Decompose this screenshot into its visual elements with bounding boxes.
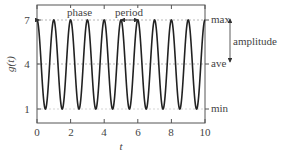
x-tick-8: 8 — [168, 126, 174, 138]
y-axis-label: g(t) — [4, 56, 17, 72]
ave-label: ave — [211, 57, 226, 69]
x-tick-6: 6 — [135, 126, 141, 138]
x-tick-0: 0 — [34, 126, 40, 138]
amplitude-label: amplitude — [233, 35, 277, 47]
y-tick-7: 7 — [24, 14, 30, 26]
x-tick-4: 4 — [101, 126, 107, 138]
g-curve — [37, 20, 205, 109]
max-label: max — [211, 13, 230, 25]
min-label: min — [211, 102, 229, 114]
period-label: period — [115, 6, 144, 18]
phase-label: phase — [67, 6, 92, 18]
y-tick-1: 1 — [24, 103, 30, 115]
x-axis-label: t — [119, 140, 123, 152]
y-tick-4: 4 — [24, 58, 30, 70]
periodic-function-chart: 7 4 1 g(t) 0 2 4 6 8 10 t max ave min am… — [0, 0, 282, 155]
x-tick-10: 10 — [200, 126, 212, 138]
x-tick-2: 2 — [68, 126, 74, 138]
